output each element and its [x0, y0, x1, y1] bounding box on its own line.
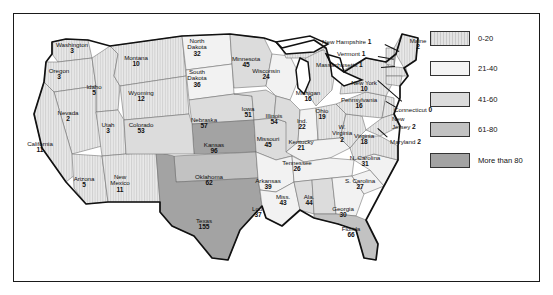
legend-item-3: 61-80	[430, 120, 540, 140]
callout-massachusetts: Massachusetts 1	[316, 61, 363, 68]
state-indiana	[298, 108, 318, 142]
legend-item-4: More than 80	[430, 150, 540, 170]
state-minnesota	[230, 34, 272, 88]
state-nebraska	[189, 94, 254, 124]
state-oklahoma	[174, 152, 258, 182]
legend-swatch-0-20	[430, 31, 470, 46]
legend-item-1: 21-40	[430, 59, 540, 79]
callout-newhampshire: New Hampshire 1	[322, 38, 371, 45]
callout-newjersey: NewJersey 2	[392, 116, 416, 131]
legend-item-2: 41-60	[430, 89, 540, 109]
state-utah	[96, 110, 126, 156]
callout-connecticut: Connecticut 0	[394, 106, 432, 113]
us-states-svg	[14, 14, 434, 264]
legend-swatch-more-than-80	[430, 153, 470, 168]
map-legend: 0-20 21-40 41-60 61-80 More than 80	[430, 28, 540, 181]
legend-label-more-than-80: More than 80	[478, 156, 523, 165]
legend-swatch-61-80	[430, 122, 470, 137]
state-kansas	[192, 120, 256, 154]
state-connecticut	[386, 76, 402, 86]
state-northdakota	[182, 34, 232, 70]
legend-label-0-20: 0-20	[478, 34, 493, 43]
legend-label-21-40: 21-40	[478, 64, 497, 73]
legend-item-0: 0-20	[430, 28, 540, 48]
callout-vermont: Vermont 1	[337, 50, 365, 57]
callout-maryland: Maryland 2	[390, 138, 421, 145]
legend-label-41-60: 41-60	[478, 95, 497, 104]
legend-swatch-41-60	[430, 92, 470, 107]
state-newmexico	[102, 152, 160, 202]
legend-label-61-80: 61-80	[478, 125, 497, 134]
figure-canvas: Washington3 Oregon3 Idaho5 Montana10 Wyo…	[0, 0, 553, 295]
legend-swatch-21-40	[430, 61, 470, 76]
state-southdakota	[186, 64, 234, 100]
state-colorado	[124, 114, 194, 154]
